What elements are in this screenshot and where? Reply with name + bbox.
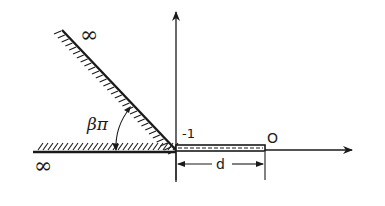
- hatch-mark: [58, 35, 65, 38]
- hatch-mark: [141, 123, 148, 126]
- hatch-mark: [158, 143, 163, 150]
- hatch-mark: [103, 83, 110, 86]
- hatch-mark: [43, 143, 48, 150]
- angle-label: βπ: [86, 114, 109, 134]
- hatch-mark: [128, 143, 133, 150]
- angle-arrow-top: [124, 106, 131, 113]
- hatch-mark: [133, 143, 138, 150]
- length-label: d: [216, 156, 225, 172]
- hatch-mark: [53, 143, 58, 150]
- hatch-mark: [73, 51, 80, 54]
- hatch-mark: [48, 143, 53, 150]
- hatch-mark: [145, 127, 152, 130]
- hatch-mark: [77, 55, 84, 58]
- hatch-mark: [38, 143, 43, 150]
- hatch-mark: [122, 103, 129, 106]
- hatch-mark: [119, 99, 126, 102]
- hatch-mark: [157, 139, 164, 142]
- hatch-mark: [58, 143, 63, 150]
- hatch-mark: [54, 31, 61, 34]
- hatch-mark: [93, 143, 98, 150]
- hatch-mark: [143, 143, 148, 150]
- minus-one-label: -1: [182, 126, 195, 141]
- hatch-mark: [153, 143, 158, 150]
- origin-label: O: [267, 130, 278, 146]
- hatch-mark: [81, 59, 88, 62]
- hatch-mark: [84, 63, 91, 66]
- hatch-mark: [69, 47, 76, 50]
- hatch-mark: [115, 95, 122, 98]
- infinity-left-label: ∞: [34, 153, 52, 178]
- hatch-mark: [63, 143, 68, 150]
- hatch-mark: [138, 143, 143, 150]
- horizontal-wall-hatching: [38, 143, 178, 150]
- hatch-mark: [62, 39, 69, 42]
- hatch-mark: [138, 119, 145, 122]
- hatch-mark: [68, 143, 73, 150]
- hatch-mark: [134, 115, 141, 118]
- hatch-mark: [78, 143, 83, 150]
- hatch-mark: [153, 135, 160, 138]
- hatch-mark: [111, 91, 118, 94]
- hatch-mark: [92, 71, 99, 74]
- hatch-mark: [83, 143, 88, 150]
- hatch-mark: [107, 87, 114, 90]
- slanted-wall-hatching: [54, 31, 175, 154]
- hatch-mark: [98, 143, 103, 150]
- diagram-canvas: ∞ ∞ βπ -1 O d: [0, 0, 385, 206]
- hatch-mark: [149, 131, 156, 134]
- hatch-mark: [88, 143, 93, 150]
- hatch-mark: [65, 43, 72, 46]
- hatch-mark: [100, 79, 107, 82]
- strip: [176, 145, 265, 151]
- hatch-mark: [123, 143, 128, 150]
- hatch-mark: [108, 143, 113, 150]
- hatch-mark: [130, 111, 137, 114]
- slanted-wall: [62, 30, 176, 150]
- hatch-mark: [148, 143, 153, 150]
- hatch-mark: [103, 143, 108, 150]
- infinity-top-label: ∞: [80, 22, 98, 47]
- hatch-mark: [73, 143, 78, 150]
- hatch-mark: [96, 75, 103, 78]
- hatch-mark: [88, 67, 95, 70]
